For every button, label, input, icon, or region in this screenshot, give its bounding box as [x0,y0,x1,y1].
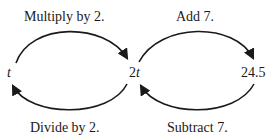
multiply-label: Multiply by 2. [24,10,105,24]
divide-arrow [13,84,127,110]
node-2t: 2t [129,66,140,80]
node-2t-var: t [136,65,140,80]
add-label: Add 7. [176,10,214,24]
multiply-arrow [16,32,127,63]
node-24-5: 24.5 [241,66,266,80]
add-arrow [139,31,253,62]
subtract-arrow [141,84,254,110]
node-t: t [7,66,11,80]
node-2t-coef: 2 [129,65,136,80]
divide-label: Divide by 2. [30,121,100,135]
subtract-label: Subtract 7. [167,121,228,135]
